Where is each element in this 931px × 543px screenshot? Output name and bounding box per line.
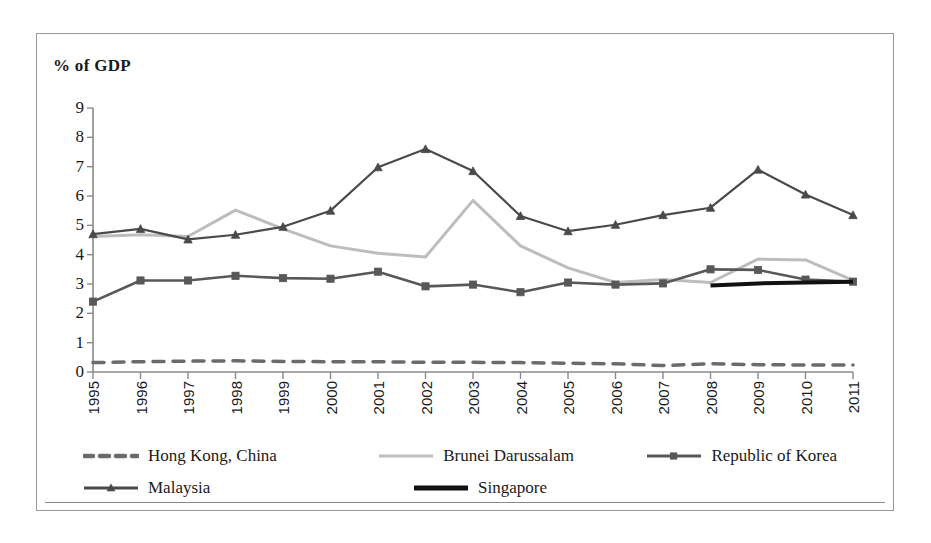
- x-tick-label: 2006: [607, 381, 624, 414]
- legend-item-malaysia[interactable]: Malaysia: [55, 478, 413, 498]
- data-point-marker: [517, 289, 524, 296]
- legend-swatch-icon: [378, 448, 434, 464]
- legend-label: Malaysia: [148, 478, 210, 498]
- x-tick-label: 2003: [465, 381, 482, 414]
- x-tick-label: 1997: [180, 381, 197, 414]
- data-point-marker: [659, 280, 666, 287]
- legend-label: Hong Kong, China: [148, 446, 277, 466]
- legend-swatch-icon: [83, 480, 139, 496]
- x-tick-label: 2010: [797, 381, 814, 414]
- data-point-marker: [564, 279, 571, 286]
- data-point-marker: [754, 165, 762, 173]
- y-tick-label: 3: [76, 274, 85, 294]
- data-point-marker: [184, 277, 191, 284]
- x-tick-label: 2011: [845, 381, 862, 413]
- data-point-marker: [137, 277, 144, 284]
- series-hong-kong-china: [93, 361, 853, 366]
- x-tick-label: 2008: [702, 381, 719, 414]
- y-tick-label: 9: [76, 98, 85, 118]
- data-point-marker: [612, 281, 619, 288]
- legend-item-singapore[interactable]: Singapore: [413, 478, 713, 498]
- y-tick-label: 5: [76, 215, 85, 235]
- plot-area: 0123456789199519961997199819992000200120…: [93, 108, 853, 372]
- legend-item-hong-kong-china[interactable]: Hong Kong, China: [55, 446, 378, 466]
- x-tick-label: 2002: [417, 381, 434, 414]
- x-tick-label: 1996: [132, 381, 149, 414]
- data-point-marker: [469, 281, 476, 288]
- data-point-marker: [754, 266, 761, 273]
- x-tick-label: 2005: [560, 381, 577, 414]
- x-tick-label: 2001: [370, 381, 387, 414]
- x-tick-label: 1998: [227, 381, 244, 414]
- series-line: [711, 282, 854, 286]
- data-point-marker: [232, 272, 239, 279]
- data-point-marker: [89, 298, 96, 305]
- x-tick-label: 1995: [85, 381, 102, 414]
- y-tick-label: 8: [76, 127, 85, 147]
- legend-label: Singapore: [478, 478, 547, 498]
- x-tick-label: 2007: [655, 381, 672, 414]
- y-tick-label: 2: [76, 303, 85, 323]
- data-point-marker: [279, 275, 286, 282]
- data-point-marker: [421, 145, 429, 153]
- data-point-marker: [422, 283, 429, 290]
- chart-figure: % of GDP 0123456789199519961997199819992…: [36, 33, 894, 511]
- series-singapore: [711, 282, 854, 286]
- legend-swatch-icon: [413, 480, 469, 496]
- legend-label: Brunei Darussalam: [443, 446, 574, 466]
- legend-swatch-icon: [646, 448, 702, 464]
- data-point-marker: [374, 268, 381, 275]
- legend-item-republic-of-korea[interactable]: Republic of Korea: [646, 446, 879, 466]
- legend-swatch-icon: [83, 448, 139, 464]
- y-tick-label: 4: [76, 245, 85, 265]
- data-point-marker: [707, 266, 714, 273]
- y-tick-label: 6: [76, 186, 85, 206]
- legend-item-brunei-darussalam[interactable]: Brunei Darussalam: [378, 446, 646, 466]
- legend-divider: [45, 502, 885, 503]
- y-tick-label: 0: [76, 362, 85, 382]
- chart-canvas: [93, 108, 853, 372]
- chart-title: % of GDP: [53, 56, 131, 76]
- data-point-marker: [327, 275, 334, 282]
- x-tick-label: 1999: [275, 381, 292, 414]
- y-tick-label: 7: [76, 157, 85, 177]
- chart-legend: Hong Kong, ChinaBrunei DarussalamRepubli…: [55, 440, 879, 504]
- y-tick-label: 1: [76, 333, 85, 353]
- x-tick-label: 2009: [750, 381, 767, 414]
- legend-row: MalaysiaSingapore: [55, 472, 879, 504]
- legend-row: Hong Kong, ChinaBrunei DarussalamRepubli…: [55, 440, 879, 472]
- x-tick-label: 2000: [322, 381, 339, 414]
- x-tick-label: 2004: [512, 381, 529, 414]
- legend-label: Republic of Korea: [711, 446, 837, 466]
- series-line: [93, 361, 853, 366]
